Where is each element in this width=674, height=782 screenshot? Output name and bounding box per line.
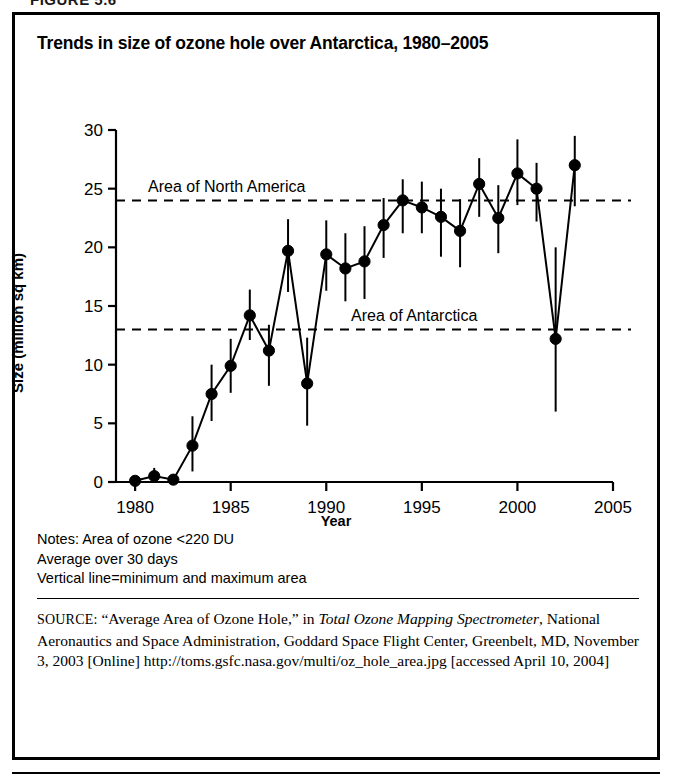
- data-point: [206, 388, 217, 399]
- data-point: [435, 211, 446, 222]
- y-tick-label: 15: [84, 297, 103, 316]
- data-point: [244, 310, 255, 321]
- data-point: [302, 378, 313, 389]
- notes-block: Notes: Area of ozone <220 DU Average ove…: [37, 530, 637, 589]
- data-point: [416, 202, 427, 213]
- data-point: [263, 345, 274, 356]
- data-point: [321, 249, 332, 260]
- data-point: [168, 474, 179, 485]
- data-point: [187, 440, 198, 451]
- y-tick-label: 0: [94, 473, 103, 492]
- figure-caption: FIGURE 5.6: [30, 0, 117, 5]
- data-point: [569, 160, 580, 171]
- page-bottom-rule: [12, 772, 660, 774]
- chart-title: Trends in size of ozone hole over Antarc…: [37, 33, 488, 54]
- data-point: [454, 225, 465, 236]
- reference-line-label: Area of Antarctica: [351, 307, 477, 324]
- source-prefix: SOURCE:: [37, 612, 98, 627]
- data-point: [149, 471, 160, 482]
- data-point: [512, 168, 523, 179]
- source-italic-title: Total Ozone Mapping Spectrometer: [318, 610, 539, 627]
- data-point: [130, 475, 141, 486]
- x-axis-label: Year: [15, 513, 657, 529]
- data-point: [340, 263, 351, 274]
- figure-container: Trends in size of ozone hole over Antarc…: [12, 12, 660, 760]
- data-point: [550, 333, 561, 344]
- data-point: [378, 219, 389, 230]
- source-divider: [37, 598, 639, 599]
- source-block: SOURCE: “Average Area of Ozone Hole,” in…: [37, 609, 643, 672]
- ozone-hole-line-chart: 051015202530198019851990199520002005Area…: [15, 73, 657, 528]
- data-point: [397, 195, 408, 206]
- note-line-3: Vertical line=minimum and maximum area: [37, 569, 637, 589]
- data-point: [359, 256, 370, 267]
- data-point: [225, 360, 236, 371]
- y-tick-label: 5: [94, 414, 103, 433]
- data-point: [474, 178, 485, 189]
- data-point: [493, 212, 504, 223]
- y-tick-label: 10: [84, 356, 103, 375]
- note-line-2: Average over 30 days: [37, 550, 637, 570]
- y-tick-label: 25: [84, 180, 103, 199]
- y-tick-label: 30: [84, 121, 103, 140]
- y-tick-label: 20: [84, 238, 103, 257]
- note-line-1: Notes: Area of ozone <220 DU: [37, 530, 637, 550]
- data-point: [282, 245, 293, 256]
- source-part-1: “Average Area of Ozone Hole,” in: [98, 610, 319, 627]
- data-point: [531, 183, 542, 194]
- chart-plot-area: 051015202530198019851990199520002005Area…: [15, 73, 657, 528]
- reference-line-label: Area of North America: [148, 178, 306, 195]
